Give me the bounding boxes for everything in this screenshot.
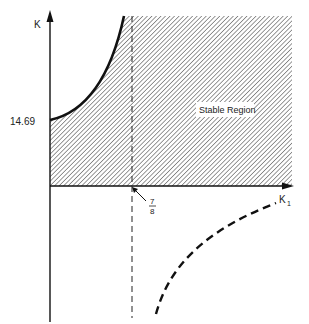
fraction-denominator: 8 <box>150 207 155 216</box>
x-axis-label-subscript: 1 <box>287 200 291 207</box>
x-axis-label: K 1 <box>279 194 291 207</box>
unstable-branch-dashed-curve <box>156 203 276 314</box>
x-axis-label-main: K <box>279 194 286 205</box>
x-marker-fraction: 7 8 <box>149 197 156 216</box>
marker-pointer <box>132 187 146 201</box>
stability-diagram: K 14.69 Stable Region 7 8 K 1 <box>0 0 309 324</box>
stable-region-label: Stable Region <box>199 105 256 115</box>
y-axis-arrow-icon <box>47 10 54 22</box>
fraction-numerator: 7 <box>150 197 155 206</box>
y-intercept-label: 14.69 <box>10 116 35 127</box>
y-axis-label: K <box>34 19 41 30</box>
